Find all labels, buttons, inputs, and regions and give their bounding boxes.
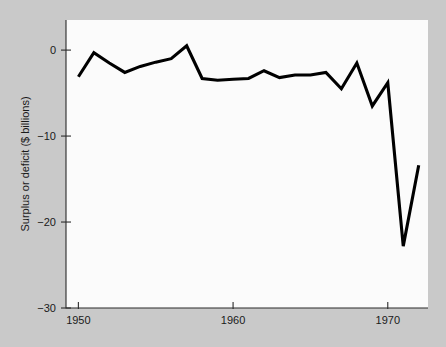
y-tick-label: −20 [37, 216, 56, 228]
y-tick-label: −10 [37, 130, 56, 142]
y-tick-label: 0 [50, 44, 56, 56]
y-tick-label: −30 [37, 302, 56, 314]
x-tick-label: 1970 [376, 314, 400, 326]
y-axis-tick-labels: 0−10−20−30 [37, 44, 56, 314]
x-tick-label: 1960 [221, 314, 245, 326]
chart-figure: 0−10−20−30 195019601970 Surplus or defic… [0, 0, 446, 347]
y-axis-title: Surplus or deficit ($ billions) [19, 96, 31, 231]
x-tick-label: 1950 [66, 314, 90, 326]
x-axis-tick-labels: 195019601970 [66, 314, 400, 326]
plot-area-background [66, 20, 428, 308]
line-chart: 0−10−20−30 195019601970 Surplus or defic… [0, 0, 446, 347]
